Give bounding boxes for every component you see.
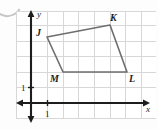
y-axis-label: y xyxy=(37,10,41,19)
coordinate-grid-figure: y x 1 1 J K L M xyxy=(0,0,158,129)
vertex-label-j: J xyxy=(36,28,41,38)
coordinate-plot xyxy=(0,0,158,129)
vertex-label-m: M xyxy=(50,74,59,84)
vertex-label-l: L xyxy=(129,74,135,84)
vertex-label-k: K xyxy=(110,13,117,23)
y-axis-arrow-down xyxy=(28,116,35,123)
y-axis-tick-label: 1 xyxy=(21,84,26,93)
x-axis-tick-label: 1 xyxy=(45,110,50,119)
x-axis-label: x xyxy=(146,105,150,114)
